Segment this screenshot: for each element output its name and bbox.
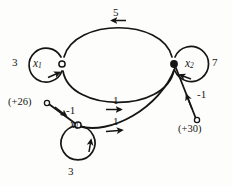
node-marker-x1-left[interactable] — [59, 61, 65, 67]
self-loop-bottom — [61, 126, 95, 160]
gain-label-right-self-loop: 7 — [212, 57, 218, 68]
node-marker-x2-right[interactable] — [171, 61, 177, 67]
gain-label-source-right: -1 — [197, 89, 206, 100]
gain-label-left-self-loop: 3 — [12, 57, 18, 68]
edge-middle-arc — [63, 70, 174, 110]
gain-label-source-left: -1 — [66, 105, 75, 116]
gain-label-middle-arc: 1 — [113, 95, 119, 106]
node-label-x1-bottom: x1 — [70, 119, 79, 131]
gain-label-top-arc: 5 — [113, 7, 119, 18]
edge-lower-arc — [78, 68, 175, 132]
source-value-left: (+26) — [8, 97, 31, 108]
gain-label-bottom-self-loop: 3 — [68, 166, 74, 177]
source-value-right: (+30) — [178, 124, 201, 135]
edge-top-arc — [64, 21, 172, 58]
signal-flow-graph-figure: x1 x2 x1 3 7 3 5 1 1 -1 -1 (+26) (+30) — [0, 0, 232, 186]
node-label-x2-right: x2 — [185, 58, 194, 70]
gain-label-lower-arc: 1 — [113, 116, 119, 127]
node-label-x1-left: x1 — [33, 58, 42, 70]
